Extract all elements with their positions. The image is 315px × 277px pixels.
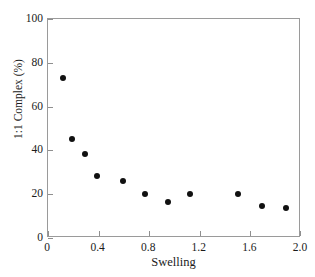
plot-frame bbox=[47, 18, 300, 237]
data-point bbox=[165, 199, 171, 205]
x-axis-tick bbox=[48, 231, 49, 236]
data-point bbox=[142, 191, 148, 197]
data-point bbox=[187, 191, 193, 197]
y-axis-tick-label: 100 bbox=[3, 12, 43, 24]
data-point bbox=[120, 178, 126, 184]
y-axis-tick bbox=[48, 107, 53, 108]
x-axis-tick bbox=[300, 231, 301, 236]
y-axis-tick bbox=[48, 238, 53, 239]
y-axis-tick bbox=[48, 194, 53, 195]
plot-area bbox=[48, 19, 299, 236]
data-point bbox=[259, 203, 265, 209]
x-axis-tick-label: 0 bbox=[27, 241, 67, 253]
x-axis-title: Swelling bbox=[47, 255, 300, 270]
data-point bbox=[235, 191, 241, 197]
x-axis-tick bbox=[99, 231, 100, 236]
x-axis-tick bbox=[200, 231, 201, 236]
x-axis-tick-label: 0.4 bbox=[78, 241, 118, 253]
x-axis-tick bbox=[149, 231, 150, 236]
x-axis-tick-label: 1.2 bbox=[179, 241, 219, 253]
y-axis-tick-label: 20 bbox=[3, 187, 43, 199]
y-axis-title: 1:1 Complex (%) bbox=[12, 29, 24, 169]
data-point bbox=[60, 75, 66, 81]
data-point bbox=[69, 136, 75, 142]
y-axis-tick bbox=[48, 63, 53, 64]
data-point bbox=[94, 173, 100, 179]
y-axis-tick bbox=[48, 19, 53, 20]
data-point bbox=[82, 151, 88, 157]
x-axis-tick-label: 0.8 bbox=[128, 241, 168, 253]
chart-figure: 020406080100 00.40.81.21.62.0 1:1 Comple… bbox=[0, 0, 315, 277]
y-axis-tick bbox=[48, 150, 53, 151]
x-axis-tick-label: 2.0 bbox=[280, 241, 315, 253]
x-axis-tick-label: 1.6 bbox=[229, 241, 269, 253]
x-axis-tick bbox=[250, 231, 251, 236]
data-point bbox=[283, 205, 289, 211]
